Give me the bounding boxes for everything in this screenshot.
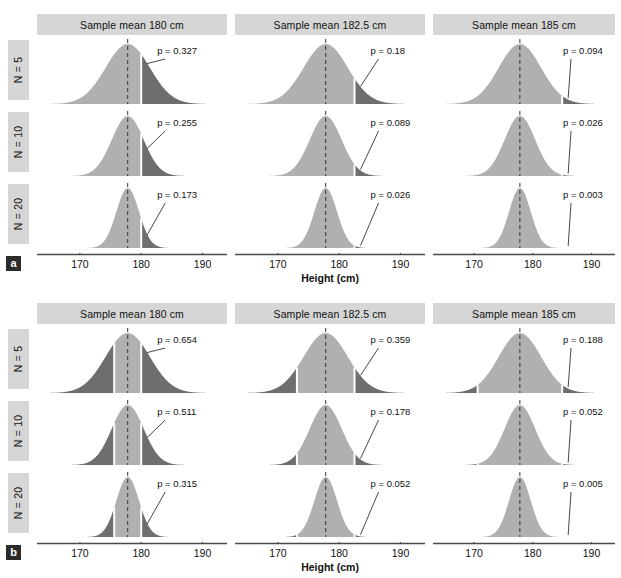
panel-letter-a: a: [6, 256, 21, 271]
plot-cell: p = 0.173: [37, 182, 227, 250]
distribution-area: [37, 44, 141, 104]
row-label-1: N = 5: [8, 329, 29, 389]
distribution-area: [37, 116, 141, 176]
distribution-area: [562, 464, 615, 465]
distribution-area: [235, 188, 355, 248]
x-axis-3: 170180190: [433, 542, 615, 568]
panel-letter-b: b: [6, 545, 21, 560]
panel-b: Sample mean 180 cmSample mean 182.5 cmSa…: [0, 289, 621, 578]
distribution-area: [235, 453, 297, 465]
p-value-leader-line: [147, 492, 165, 524]
p-value-leader-line: [361, 203, 379, 246]
column-header-3: Sample mean 185 cm: [433, 303, 615, 324]
row-label-text: N = 5: [13, 346, 25, 372]
column-header-1: Sample mean 180 cm: [37, 303, 227, 324]
plot-cell: p = 0.327: [37, 38, 227, 106]
p-value-leader-line: [568, 59, 571, 98]
distribution-area: [235, 367, 297, 393]
p-value-leader-line: [147, 131, 165, 148]
p-value-label: p = 0.026: [371, 189, 411, 200]
distribution-area: [355, 78, 425, 104]
plot-cell: p = 0.026: [433, 110, 615, 178]
distribution-area: [433, 464, 478, 465]
axis-tick-label: 170: [269, 547, 287, 559]
column-header-2: Sample mean 182.5 cm: [235, 303, 425, 324]
row-label-3: N = 20: [8, 473, 29, 533]
x-axis-3: 170180190: [433, 253, 615, 279]
plot-cell: p = 0.654: [37, 327, 227, 395]
p-value-leader-line: [361, 492, 379, 535]
axis-tick-label: 190: [583, 547, 601, 559]
row-label-2: N = 10: [8, 112, 29, 172]
distribution-area: [235, 535, 297, 537]
x-axis-title: Height (cm): [270, 272, 390, 284]
distribution-area: [141, 134, 227, 176]
distribution-area: [235, 44, 355, 104]
distribution-area: [562, 385, 615, 393]
plot-cell: p = 0.026: [235, 182, 425, 250]
plot-cell: p = 0.089: [235, 110, 425, 178]
axis-tick-label: 190: [194, 547, 212, 559]
distribution-area: [355, 453, 425, 465]
p-value-leader-line: [361, 420, 379, 458]
axis-tick-label: 180: [330, 258, 348, 270]
row-label-text: N = 10: [13, 415, 25, 447]
distribution-area: [141, 423, 227, 465]
distribution-area: [562, 175, 615, 176]
plot-cell: p = 0.178: [235, 399, 425, 467]
plot-cell: p = 0.052: [433, 399, 615, 467]
p-value-leader-line: [147, 59, 165, 64]
p-value-label: p = 0.511: [157, 406, 196, 417]
p-value-label: p = 0.327: [157, 45, 197, 56]
axis-tick-label: 180: [132, 258, 150, 270]
x-axis-title: Height (cm): [270, 561, 390, 573]
axis-tick-label: 190: [194, 258, 212, 270]
axis-tick-label: 180: [132, 547, 150, 559]
row-label-text: N = 10: [13, 126, 25, 158]
plot-cell: p = 0.005: [433, 471, 615, 539]
x-axis-1: 170180190: [37, 542, 227, 568]
axis-tick-label: 190: [392, 258, 410, 270]
p-value-label: p = 0.178: [371, 406, 411, 417]
p-value-label: p = 0.18: [371, 45, 406, 56]
axis-tick-label: 170: [71, 258, 89, 270]
p-value-label: p = 0.255: [157, 117, 197, 128]
plot-cell: p = 0.511: [37, 399, 227, 467]
p-value-leader-line: [361, 348, 379, 375]
axis-tick-label: 170: [71, 547, 89, 559]
p-value-label: p = 0.052: [371, 478, 411, 489]
distribution-area: [355, 535, 425, 537]
distribution-area: [355, 367, 425, 393]
distribution-area: [433, 385, 478, 393]
p-value-leader-line: [568, 203, 571, 246]
column-header-row: Sample mean 180 cmSample mean 182.5 cmSa…: [0, 14, 621, 35]
axis-tick-label: 180: [330, 547, 348, 559]
p-value-label: p = 0.026: [563, 117, 603, 128]
p-value-label: p = 0.052: [563, 406, 603, 417]
p-value-leader-line: [147, 420, 165, 437]
panel-a: Sample mean 180 cmSample mean 182.5 cmSa…: [0, 0, 621, 289]
axis-tick-label: 190: [392, 547, 410, 559]
distribution-area: [37, 188, 141, 248]
p-value-label: p = 0.005: [563, 478, 603, 489]
distribution-area: [355, 246, 425, 248]
p-value-label: p = 0.654: [157, 334, 197, 345]
plot-cell: p = 0.188: [433, 327, 615, 395]
row-label-text: N = 5: [13, 57, 25, 83]
row-label-1: N = 5: [8, 40, 29, 100]
distribution-area: [433, 116, 562, 176]
column-header-row: Sample mean 180 cmSample mean 182.5 cmSa…: [0, 303, 621, 324]
p-value-label: p = 0.188: [563, 334, 603, 345]
p-value-label: p = 0.094: [563, 45, 603, 56]
p-value-label: p = 0.003: [563, 189, 603, 200]
distribution-area: [37, 423, 114, 465]
distribution-area: [433, 44, 562, 104]
axis-tick-label: 190: [583, 258, 601, 270]
axis-tick-label: 180: [524, 547, 542, 559]
p-value-leader-line: [147, 203, 165, 235]
axis-tick-label: 170: [465, 547, 483, 559]
column-header-2: Sample mean 182.5 cm: [235, 14, 425, 35]
p-value-leader-line: [568, 348, 571, 387]
axis-tick-label: 170: [269, 258, 287, 270]
p-value-leader-line: [361, 59, 379, 86]
